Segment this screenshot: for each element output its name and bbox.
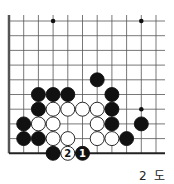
black-stone	[90, 73, 104, 87]
white-stone	[90, 132, 104, 146]
white-stone	[76, 102, 90, 116]
go-board: 21	[0, 0, 174, 184]
black-stone	[61, 88, 75, 102]
black-stone	[31, 132, 45, 146]
black-stone	[105, 88, 119, 102]
black-stone	[134, 117, 148, 131]
black-stone	[120, 132, 134, 146]
black-stone	[31, 88, 45, 102]
black-stone	[46, 88, 60, 102]
black-stone	[17, 117, 31, 131]
black-stone	[105, 102, 119, 116]
black-stone	[105, 117, 119, 131]
black-stone	[31, 102, 45, 116]
white-stone	[46, 102, 60, 116]
white-stone	[46, 132, 60, 146]
black-stone	[46, 146, 60, 160]
move-number: 1	[79, 148, 86, 159]
black-stone	[17, 132, 31, 146]
star-point	[139, 19, 144, 24]
white-stone	[61, 132, 75, 146]
white-stone	[61, 102, 75, 116]
white-stone	[46, 117, 60, 131]
star-point	[139, 107, 144, 112]
white-stone	[90, 102, 104, 116]
white-stone	[105, 132, 119, 146]
move-number: 2	[64, 148, 71, 159]
white-stone	[31, 117, 45, 131]
white-stone	[90, 117, 104, 131]
star-point	[51, 19, 56, 24]
diagram-caption: 2 도	[139, 166, 167, 183]
